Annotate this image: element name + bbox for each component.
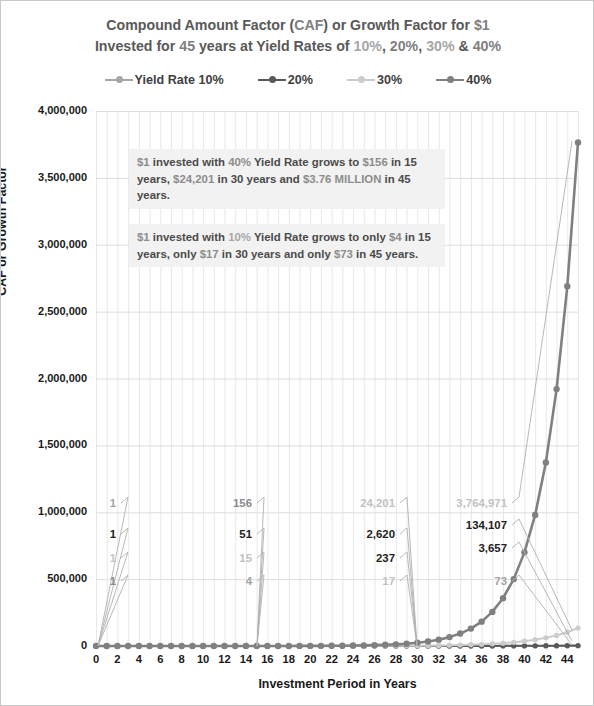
data-point-label: 1 [110, 528, 116, 540]
annotation-segment-4: $4 [389, 231, 402, 243]
data-point-label: 24,201 [360, 497, 395, 509]
series-point [361, 642, 367, 648]
series-point [243, 643, 249, 649]
annotation-segment-1: invested with [150, 156, 228, 168]
data-point-label: 17 [382, 575, 395, 587]
leader-line [512, 497, 519, 503]
series-point [328, 643, 334, 649]
series-point [447, 643, 452, 648]
chart-figure: Compound Amount Factor (CAF) or Growth F… [0, 0, 594, 706]
x-axis-title: Investment Period in Years [96, 677, 579, 691]
series-point [393, 641, 399, 647]
leader-line [519, 575, 572, 645]
y-axis-title: CAF or Growth Factor [0, 131, 9, 331]
annotation-segment-2: 40% [228, 156, 251, 168]
annotation-segment-6: $24,201 [173, 173, 214, 185]
data-point-label: 73 [494, 575, 507, 587]
leader-line [98, 528, 128, 646]
leader-line [98, 497, 128, 646]
series-point [211, 643, 217, 649]
chart-series-area [1, 1, 594, 706]
data-point-label: 51 [239, 528, 252, 540]
series-point [553, 386, 559, 392]
series-point [307, 643, 313, 649]
annotation-segment-8: $3.76 MILLION [303, 173, 382, 185]
series-point [522, 643, 527, 648]
annotation-segment-8: $73 [334, 248, 353, 260]
y-axis-tick-label: 0 [3, 639, 87, 651]
annotation-segment-7: in 30 years and only [219, 248, 334, 260]
series-point [565, 643, 570, 648]
series-point [490, 641, 495, 646]
annotation-segment-1: invested with [150, 231, 228, 243]
series-point [533, 643, 538, 648]
annotation-segment-2: 10% [228, 231, 251, 243]
leader-line [257, 528, 264, 534]
series-point [436, 643, 441, 648]
annotation-segment-9: in 45 years. [353, 248, 418, 260]
series-point [168, 643, 174, 649]
series-line [96, 628, 578, 646]
series-point [532, 512, 538, 518]
leader-line [400, 497, 407, 503]
y-axis-tick-label: 2,500,000 [3, 305, 87, 317]
series-point [479, 642, 484, 647]
annotation-40-percent: $1 invested with 40% Yield Rate grows to… [129, 149, 445, 209]
y-axis-tick-label: 500,000 [3, 572, 87, 584]
series-point [189, 643, 195, 649]
data-point-label: 156 [233, 497, 252, 509]
data-point-label: 3,764,971 [456, 497, 507, 509]
data-point-label: 1 [110, 552, 116, 564]
annotation-10-percent: $1 invested with 10% Yield Rate grows to… [129, 224, 445, 267]
data-point-label: 1 [110, 497, 116, 509]
series-point [125, 643, 131, 649]
series-point [446, 634, 452, 640]
data-point-label: 134,107 [466, 519, 507, 531]
annotation-segment-3: Yield Rate grows to [251, 156, 362, 168]
y-axis-tick-label: 4,000,000 [3, 104, 87, 116]
series-point [478, 618, 484, 624]
series-point [403, 640, 409, 646]
series-point [318, 643, 324, 649]
leader-line [512, 519, 519, 525]
data-point-label: 15 [239, 552, 252, 564]
annotation-segment-4: $156 [362, 156, 387, 168]
y-axis-tick-label: 3,500,000 [3, 171, 87, 183]
series-point [339, 642, 345, 648]
x-axis-tick-label: 44 [554, 653, 580, 665]
series-point [575, 139, 581, 145]
annotation-segment-0: $1 [137, 231, 150, 243]
y-axis-tick-label: 2,000,000 [3, 372, 87, 384]
series-point [533, 637, 538, 642]
annotation-segment-0: $1 [137, 156, 150, 168]
leader-line [98, 552, 128, 646]
y-axis-tick-label: 1,500,000 [3, 438, 87, 450]
data-point-label: 237 [376, 552, 395, 564]
series-point [554, 643, 559, 648]
annotation-segment-7: in 30 years and [214, 173, 303, 185]
series-point [543, 459, 549, 465]
series-point [468, 625, 474, 631]
series-point [136, 643, 142, 649]
leader-line [400, 575, 407, 581]
series-point [264, 643, 270, 649]
series-point [543, 643, 548, 648]
series-point [146, 643, 152, 649]
series-point [564, 283, 570, 289]
series-point [457, 630, 463, 636]
leader-line [257, 552, 264, 558]
annotation-segment-6: $17 [200, 248, 219, 260]
data-point-label: 1 [110, 575, 116, 587]
leader-line [400, 552, 407, 558]
series-point [458, 642, 463, 647]
y-axis-tick-label: 3,000,000 [3, 238, 87, 250]
series-point [296, 643, 302, 649]
series-point [157, 643, 163, 649]
series-point [554, 633, 559, 638]
series-point [500, 595, 506, 601]
leader-line [519, 519, 572, 630]
leader-line [519, 542, 572, 641]
series-point [221, 643, 227, 649]
series-point [575, 625, 580, 630]
leader-line [257, 497, 264, 503]
